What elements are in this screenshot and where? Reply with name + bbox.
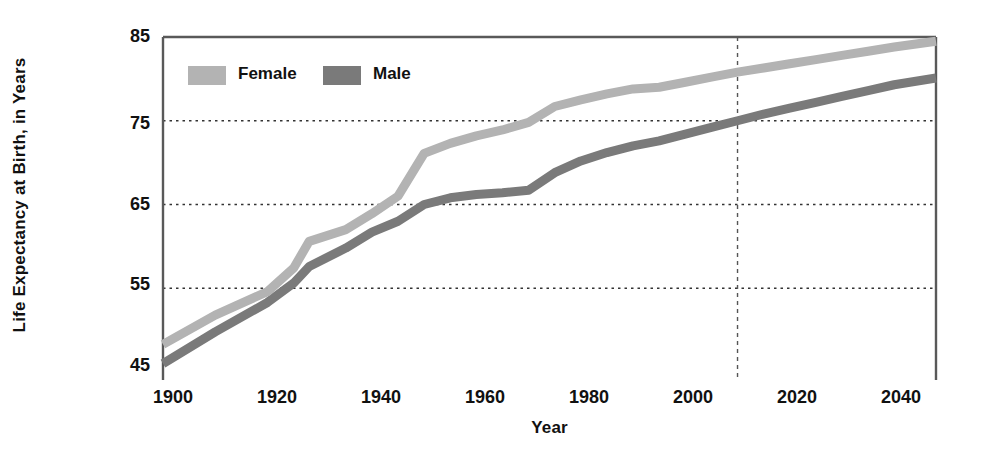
- axes-group: [163, 37, 936, 380]
- plot-area: [0, 0, 987, 452]
- life-expectancy-chart: Life Expectancy at Birth, in Years 45 55…: [0, 0, 987, 452]
- legend-swatch-male: [323, 66, 361, 85]
- series-lines-group: [163, 41, 936, 363]
- legend-label-male: Male: [373, 64, 411, 84]
- legend-label-female: Female: [238, 64, 297, 84]
- gridlines-group: [163, 121, 936, 289]
- legend-swatch-female: [188, 66, 226, 85]
